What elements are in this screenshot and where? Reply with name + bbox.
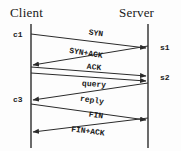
endpoint-label-s1: s1: [160, 43, 170, 52]
endpoint-label-c1: c1: [13, 30, 23, 39]
header-client: Client: [10, 5, 43, 21]
message-label-query: query: [82, 79, 107, 90]
header-server: Server: [119, 5, 154, 21]
endpoint-label-s2: s2: [160, 73, 170, 82]
sequence-diagram: Client Server c1s1s2c3 SYNSYN+ACKACKquer…: [0, 0, 181, 151]
message-label-syn: SYN: [88, 28, 103, 39]
message-label-ack: ACK: [86, 62, 101, 72]
endpoint-label-c3: c3: [13, 95, 23, 104]
message-label-fin: FIN: [88, 110, 104, 121]
